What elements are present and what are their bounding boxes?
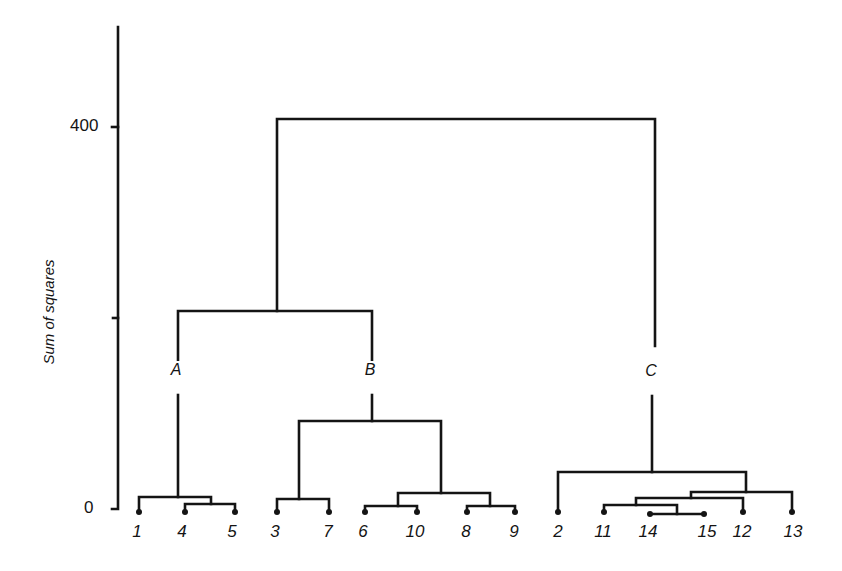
b-sub-link	[299, 421, 441, 499]
leaf-label: 11	[594, 522, 612, 542]
leaf-label: 8	[461, 522, 470, 542]
leaf-label: 3	[270, 522, 279, 542]
cluster-label-c: C	[643, 362, 659, 380]
ab-link	[178, 311, 372, 368]
leaf-label: 14	[639, 522, 658, 542]
dendrogram-chart	[0, 0, 842, 571]
leaf-label: 1	[132, 522, 141, 542]
leaf-label: 13	[784, 522, 803, 542]
link-6-10-8-9	[398, 493, 490, 506]
leaf-label: 7	[323, 522, 332, 542]
leaf-label: 15	[698, 522, 717, 542]
leaf-label: 6	[358, 522, 367, 542]
cluster-label-b: B	[363, 361, 378, 379]
leaf-label: 4	[177, 522, 186, 542]
link-11	[604, 505, 677, 514]
link-6-10	[365, 506, 417, 512]
y-axis	[112, 27, 118, 509]
leaf-label: 2	[553, 522, 562, 542]
cluster-label-a: A	[169, 361, 184, 379]
leaf-label: 12	[733, 522, 752, 542]
y-tick-label-400: 400	[70, 116, 98, 136]
link-3-7	[277, 499, 329, 512]
link-8-9	[467, 506, 515, 512]
link-4-5	[185, 504, 235, 512]
leaf-label: 5	[227, 522, 236, 542]
link-13	[691, 492, 792, 512]
y-axis-label: Sum of squares	[40, 265, 57, 365]
leaf-label: 9	[509, 522, 518, 542]
leaf-label: 10	[406, 522, 425, 542]
y-tick-label-0: 0	[84, 498, 93, 518]
